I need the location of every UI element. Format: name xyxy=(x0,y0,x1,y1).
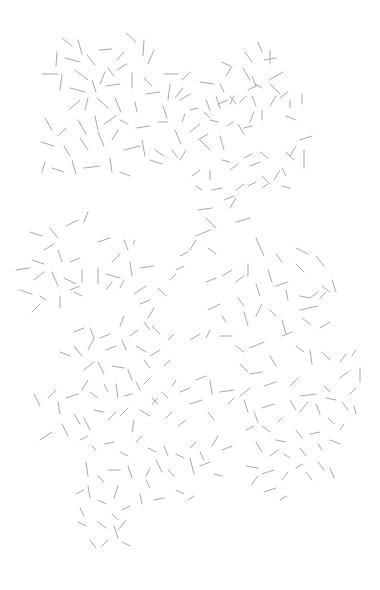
line-segment-artwork xyxy=(0,0,380,590)
